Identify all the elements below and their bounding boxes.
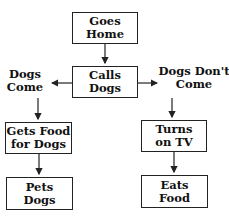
branch-dogs-come: Dogs Come [2,68,48,94]
node-text: on TV [155,136,193,149]
node-text: Dogs [89,82,121,95]
node-gets-food: Gets Foodfor Dogs [5,122,72,154]
node-text: Eats [159,179,190,192]
node-text: Dogs [23,194,55,207]
node-text: for Dogs [7,138,71,151]
branch-text: Come [158,78,229,91]
node-goes-home: GoesHome [72,12,138,44]
branch-text: Come [2,81,48,94]
node-eats-food: EatsFood [141,175,208,208]
node-pets-dogs: PetsDogs [6,177,73,210]
node-text: Home [86,28,124,41]
node-text: Food [159,192,190,205]
node-calls-dogs: CallsDogs [72,66,138,98]
node-text: Pets [23,181,55,194]
node-turns-on-tv: Turnson TV [141,120,207,152]
branch-dogs-dont-come: Dogs Don't Come [158,65,229,91]
